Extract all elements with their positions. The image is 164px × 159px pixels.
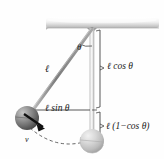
length-label: ℓ: [45, 64, 49, 74]
velocity-label: v⃗: [25, 136, 35, 144]
l-one-minus-cos-theta-label: ℓ (1−cos θ): [106, 122, 150, 132]
l-cos-theta-label: ℓ cos θ: [107, 62, 133, 72]
pendulum-bob-rest: [80, 129, 104, 153]
theta-label: θ: [77, 43, 81, 52]
ceiling-slab: [46, 17, 159, 30]
pendulum-diagram: ℓ θ ℓ cos θ ℓ sin θ ℓ (1−cos θ) v⃗: [0, 0, 164, 159]
measure-bracket-cos: [96, 30, 104, 108]
l-sin-theta-label: ℓ sin θ: [45, 104, 69, 114]
vertical-reference-line: [90, 28, 94, 142]
pendulum-bob-displaced: [15, 106, 39, 130]
